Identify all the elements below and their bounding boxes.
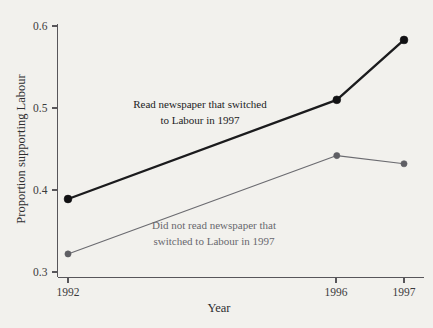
y-axis-ticks: 0.3 0.4 0.5 0.6 <box>33 20 58 278</box>
y-tick-label: 0.3 <box>33 266 48 278</box>
y-axis-title: Proportion supporting Labour <box>14 74 28 224</box>
series-label-did-not-read-line1: Did not read newspaper that <box>152 219 276 231</box>
data-point <box>65 251 71 257</box>
x-tick-label: 1992 <box>57 286 80 298</box>
chart-figure: Proportion supporting Labour Year 0.3 0.… <box>0 0 433 328</box>
y-tick-label: 0.4 <box>33 184 48 196</box>
x-tick-label: 1997 <box>393 286 416 298</box>
x-axis-title: Year <box>207 301 231 315</box>
series-label-did-not-read-line2: switched to Labour in 1997 <box>154 235 275 247</box>
data-point <box>401 161 407 167</box>
x-tick-label: 1996 <box>325 286 348 298</box>
data-point <box>334 152 340 158</box>
data-point <box>400 36 408 44</box>
x-axis-ticks: 1992 1996 1997 <box>57 278 416 299</box>
y-tick-label: 0.5 <box>33 102 48 114</box>
line-chart: Proportion supporting Labour Year 0.3 0.… <box>0 0 433 328</box>
series-label-read-line1: Read newspaper that switched <box>133 98 267 110</box>
y-tick-label: 0.6 <box>33 20 48 32</box>
series-label-did-not-read: Did not read newspaper that switched to … <box>152 219 276 247</box>
series-label-read: Read newspaper that switched to Labour i… <box>133 98 267 126</box>
data-point <box>333 96 341 104</box>
series-label-read-line2: to Labour in 1997 <box>160 114 240 126</box>
data-point <box>64 195 72 203</box>
